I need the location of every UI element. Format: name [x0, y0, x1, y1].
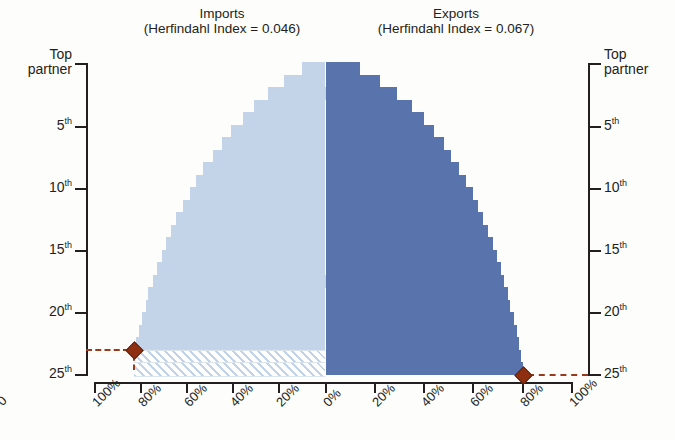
- left-y-label-20th: 20th: [0, 304, 72, 319]
- export-bar: [326, 137, 444, 150]
- export-bar: [326, 362, 523, 375]
- import-bar: [139, 325, 326, 338]
- right-y-tick-5: [588, 126, 601, 128]
- import-bar: [171, 225, 325, 238]
- plot-area: [95, 62, 572, 375]
- left-y-tick-25: [75, 374, 88, 376]
- export-bar: [326, 300, 511, 313]
- x-tick-label-imports-100pct: 100%: [89, 375, 123, 409]
- export-bar: [326, 337, 520, 350]
- import-bar: [136, 337, 325, 350]
- export-bar: [326, 287, 508, 300]
- export-bar: [326, 225, 489, 238]
- export-bar: [326, 312, 515, 325]
- exports-title-line2: (Herfindahl Index = 0.067): [338, 21, 574, 36]
- export-bar: [326, 150, 452, 163]
- import-bar: [222, 137, 326, 150]
- imports-title-line1: Imports: [199, 6, 244, 21]
- left-y-tick-20: [75, 312, 88, 314]
- right-top-word: Top: [604, 46, 627, 62]
- right-y-label-10th: 10th: [604, 180, 675, 195]
- right-y-tick-15: [588, 250, 601, 252]
- right-y-label-5th: 5th: [604, 118, 675, 133]
- export-bar: [326, 175, 467, 188]
- export-bar: [326, 112, 425, 125]
- x-tick-label-imports-0pct: 0%: [320, 386, 344, 410]
- export-bar: [326, 125, 434, 138]
- right-y-tick-10: [588, 188, 601, 190]
- export-bar: [326, 75, 380, 88]
- import-bar: [157, 262, 325, 275]
- exports-marker-dashed-line: [528, 374, 588, 376]
- exports-title-line1: Exports: [433, 6, 479, 21]
- export-bar: [326, 212, 484, 225]
- export-bar: [326, 275, 505, 288]
- imports-panel-title: Imports (Herfindahl Index = 0.046): [104, 6, 340, 36]
- import-bar: [254, 100, 325, 113]
- import-bar: [284, 75, 325, 88]
- right-y-label-top-partner: Top partner: [604, 47, 675, 77]
- import-bar: [196, 175, 325, 188]
- export-bar: [326, 187, 474, 200]
- export-bar: [326, 162, 459, 175]
- export-bar: [326, 237, 494, 250]
- import-bar: [166, 237, 325, 250]
- import-bar: [183, 200, 326, 213]
- left-y-label-25th: 25th: [0, 366, 72, 381]
- left-y-label-top-partner: Top partner: [0, 47, 72, 77]
- import-bar: [146, 300, 326, 313]
- left-y-label-15th: 15th: [0, 242, 72, 257]
- export-bar: [326, 62, 361, 75]
- x-tick-label-exports-100pct: 100%: [566, 375, 600, 409]
- left-y-label-10th: 10th: [0, 180, 72, 195]
- right-y-tick-20: [588, 312, 601, 314]
- import-bar: [231, 125, 326, 138]
- import-bar: [176, 212, 326, 225]
- import-bar: [243, 112, 326, 125]
- export-bar: [326, 350, 522, 363]
- right-partner-word: partner: [604, 61, 648, 77]
- left-y-label-5th: 5th: [0, 118, 72, 133]
- exports-panel-title: Exports (Herfindahl Index = 0.067): [338, 6, 574, 36]
- import-bar: [268, 87, 326, 100]
- right-y-label-25th: 25th: [604, 366, 675, 381]
- export-bar: [326, 262, 501, 275]
- left-partner-word: partner: [28, 61, 72, 77]
- imports-title-line2: (Herfindahl Index = 0.046): [104, 21, 340, 36]
- x-label-clipped-edge: 0: [0, 393, 10, 409]
- left-top-word: Top: [49, 46, 72, 62]
- import-bar: [153, 275, 326, 288]
- export-bar: [326, 200, 479, 213]
- left-y-tick-15: [75, 250, 88, 252]
- import-bar: [213, 150, 326, 163]
- import-bar: [162, 250, 326, 263]
- x-axis-line: [95, 382, 572, 384]
- left-y-tick-10: [75, 188, 88, 190]
- right-y-label-15th: 15th: [604, 242, 675, 257]
- right-y-axis-line: [588, 63, 590, 376]
- export-bar: [326, 325, 517, 338]
- import-bar: [302, 62, 325, 75]
- import-bar: [148, 287, 325, 300]
- left-y-tick-5: [75, 126, 88, 128]
- chart-figure: Imports (Herfindahl Index = 0.046) Expor…: [0, 0, 675, 440]
- left-y-tick-1: [75, 63, 88, 65]
- import-bar: [203, 162, 325, 175]
- export-bar: [326, 100, 412, 113]
- export-bar: [326, 87, 397, 100]
- imports-marker-dashed-line: [86, 349, 129, 351]
- right-y-label-20th: 20th: [604, 304, 675, 319]
- import-bar: [190, 187, 326, 200]
- export-bar: [326, 250, 497, 263]
- left-y-axis-line: [86, 63, 88, 376]
- right-y-tick-1: [588, 63, 601, 65]
- import-bar-hatched: [134, 362, 325, 377]
- import-bar: [142, 312, 325, 325]
